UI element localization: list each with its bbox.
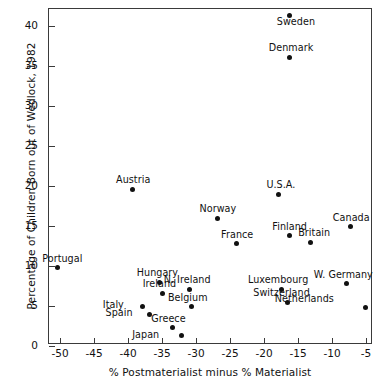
data-point-label: W. Germany [314, 269, 373, 280]
y-axis-tick-label: 30 [8, 99, 38, 111]
scatter-chart: Percentage of Children Born out of Wedlo… [0, 0, 387, 386]
data-point[interactable] [160, 291, 165, 296]
y-axis-tick [49, 226, 55, 227]
x-axis-tick-label: -15 [283, 347, 313, 359]
data-point[interactable] [215, 216, 220, 221]
x-axis-tick-label: -50 [45, 347, 75, 359]
y-axis-tick [49, 106, 55, 107]
x-axis-title: % Postmaterialist minus % Materialist [48, 366, 372, 378]
data-point[interactable] [170, 325, 175, 330]
data-point-label: Greece [151, 313, 185, 324]
data-point-label: Austria [116, 174, 150, 185]
x-axis-tick-label: -20 [249, 347, 279, 359]
data-point-label: Denmark [269, 42, 313, 53]
x-axis-tick [264, 338, 265, 344]
x-axis-tick [298, 338, 299, 344]
y-axis-tick [49, 66, 55, 67]
x-axis-tick [196, 338, 197, 344]
data-point[interactable] [130, 187, 135, 192]
y-axis-tick-label: 20 [8, 179, 38, 191]
x-axis-tick-label: -35 [147, 347, 177, 359]
data-point-label: Luxembourg [248, 274, 308, 285]
data-point[interactable] [363, 305, 368, 310]
x-axis-tick-label: -40 [113, 347, 143, 359]
x-axis-tick-label: -10 [317, 347, 347, 359]
data-point-label: Norway [200, 203, 237, 214]
y-axis-tick-label: 35 [8, 59, 38, 71]
y-axis-tick-label: 15 [8, 219, 38, 231]
x-axis-tick-label: -30 [181, 347, 211, 359]
data-point-label: Spain [106, 307, 133, 318]
data-point-label: Ireland [143, 278, 177, 289]
x-axis-tick [366, 338, 367, 344]
data-point-label: Sweden [277, 16, 315, 27]
data-point-label: Canada [333, 212, 370, 223]
y-axis-tick [49, 146, 55, 147]
x-axis-tick-label: -25 [215, 347, 245, 359]
y-axis-tick-label: 5 [8, 299, 38, 311]
x-axis-tick [94, 338, 95, 344]
y-axis-tick-label: 0 [8, 339, 38, 351]
x-axis-tick-label: -5 [351, 347, 381, 359]
x-axis-tick [332, 338, 333, 344]
y-axis-tick [49, 306, 55, 307]
data-point[interactable] [140, 304, 145, 309]
data-point-label: Netherlands [275, 293, 334, 304]
y-axis-tick [49, 26, 55, 27]
data-point[interactable] [308, 240, 313, 245]
y-axis-tick-label: 25 [8, 139, 38, 151]
y-axis-tick-label: 40 [8, 19, 38, 31]
x-axis-tick [60, 338, 61, 344]
data-point[interactable] [344, 281, 349, 286]
data-point[interactable] [234, 241, 239, 246]
data-point-label: U.S.A. [266, 179, 295, 190]
data-point-label: Japan [132, 329, 159, 340]
data-point-label: Britain [298, 227, 330, 238]
y-axis-tick-label: 10 [8, 259, 38, 271]
data-point[interactable] [55, 265, 60, 270]
data-point-label: France [221, 229, 253, 240]
data-point-label: Portugal [42, 253, 82, 264]
x-axis-tick [128, 338, 129, 344]
x-axis-tick [230, 338, 231, 344]
x-axis-tick [162, 338, 163, 344]
y-axis-tick [49, 186, 55, 187]
y-axis-tick [49, 346, 55, 347]
y-axis-title: Percentage of Children Born out of Wedlo… [25, 26, 37, 326]
x-axis-tick-label: -45 [79, 347, 109, 359]
data-point-label: Belgium [168, 292, 208, 303]
